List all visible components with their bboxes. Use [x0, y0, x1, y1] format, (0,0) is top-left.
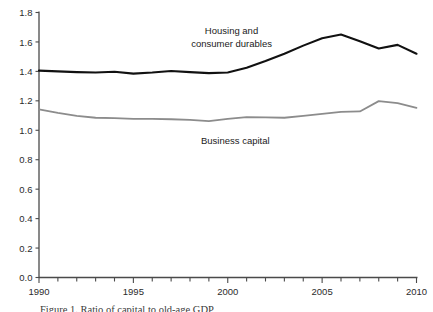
figure-container: 0.00.20.40.60.81.01.21.41.61.8 199019952… — [0, 0, 433, 312]
y-tick-label: 0.4 — [19, 213, 32, 224]
y-tick-label: 0.6 — [19, 184, 32, 195]
series-label: Housing and — [205, 25, 258, 36]
series-label: consumer durables — [191, 38, 272, 49]
figure-caption: Figure 1. Ratio of capital to old-age GD… — [40, 303, 214, 312]
x-tick-label: 1995 — [123, 286, 144, 297]
y-tick-label: 0.0 — [19, 272, 32, 283]
series-label: Business capital — [201, 135, 270, 146]
line-chart: 0.00.20.40.60.81.01.21.41.61.8 199019952… — [0, 0, 433, 312]
y-tick-label: 1.8 — [19, 7, 32, 18]
x-tick-label: 2010 — [406, 286, 427, 297]
x-tick-label: 2000 — [217, 286, 238, 297]
y-tick-label: 1.2 — [19, 95, 32, 106]
y-tick-label: 0.2 — [19, 243, 32, 254]
y-tick-label: 1.6 — [19, 37, 32, 48]
x-tick-label: 2005 — [312, 286, 333, 297]
x-tick-label: 1990 — [28, 286, 49, 297]
y-tick-label: 0.8 — [19, 154, 32, 165]
y-tick-label: 1.0 — [19, 125, 32, 136]
y-tick-label: 1.4 — [19, 66, 32, 77]
